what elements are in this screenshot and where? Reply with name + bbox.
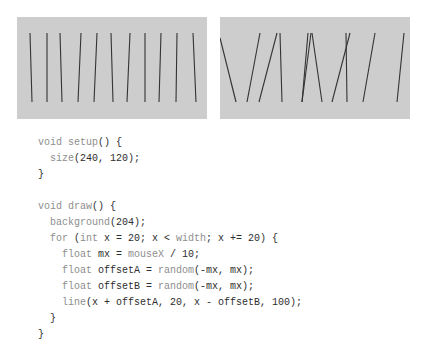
code-line: background(204); xyxy=(38,215,302,231)
code-text xyxy=(38,153,50,164)
drawn-line xyxy=(111,33,113,102)
code-text: (x + offsetA, 20, x - offsetB, 100); xyxy=(86,297,302,308)
code-keyword: size xyxy=(50,153,74,164)
drawn-line xyxy=(176,33,177,102)
drawn-line xyxy=(397,33,404,102)
code-text xyxy=(38,249,62,260)
code-keyword: int xyxy=(80,233,98,244)
drawn-line xyxy=(302,33,311,102)
code-line: float offsetB = random(-mx, mx); xyxy=(38,279,302,295)
code-keyword: width xyxy=(176,233,206,244)
code-line: float mx = mouseX / 10; xyxy=(38,247,302,263)
code-text: (204); xyxy=(110,217,146,228)
drawn-line xyxy=(127,33,130,102)
drawn-line xyxy=(78,33,81,102)
code-text xyxy=(38,281,62,292)
code-line: for (int x = 20; x < width; x += 20) { xyxy=(38,231,302,247)
code-text xyxy=(38,217,50,228)
drawn-line xyxy=(259,33,277,102)
code-line: size(240, 120); xyxy=(38,151,302,167)
code-text: } xyxy=(38,329,44,340)
code-text: (-mx, mx); xyxy=(194,281,254,292)
code-text: mx = xyxy=(92,249,128,260)
drawn-line xyxy=(220,38,236,102)
code-text: } xyxy=(38,313,56,324)
drawn-line xyxy=(60,33,62,102)
code-keyword: setup xyxy=(68,137,98,148)
code-keyword: mouseX xyxy=(128,249,164,260)
code-text: (-mx, mx); xyxy=(194,265,254,276)
code-text: ; x += 20) { xyxy=(206,233,278,244)
code-line: void draw() { xyxy=(38,199,302,215)
drawn-line xyxy=(280,33,282,102)
code-line: } xyxy=(38,311,302,327)
code-keyword: float xyxy=(62,265,92,276)
code-keyword: float xyxy=(62,249,92,260)
code-keyword: draw xyxy=(68,201,92,212)
drawn-line xyxy=(94,33,97,102)
code-keyword: line xyxy=(62,297,86,308)
sketch-output-low-mouse xyxy=(17,17,207,119)
drawn-line xyxy=(247,33,260,102)
code-line xyxy=(38,183,302,199)
code-line: line(x + offsetA, 20, x - offsetB, 100); xyxy=(38,295,302,311)
code-text: } xyxy=(38,169,44,180)
line-drawing xyxy=(17,17,207,119)
code-line: } xyxy=(38,327,302,340)
drawn-line xyxy=(312,33,322,102)
code-line: } xyxy=(38,167,302,183)
code-listing: void setup() { size(240, 120);} void dra… xyxy=(38,135,302,340)
drawn-line xyxy=(30,33,32,102)
code-keyword: random xyxy=(158,281,194,292)
code-text: ( xyxy=(68,233,80,244)
code-text: () { xyxy=(92,201,116,212)
sketch-output-high-mouse xyxy=(220,17,410,119)
code-text xyxy=(38,265,62,276)
code-keyword: random xyxy=(158,265,194,276)
drawn-line xyxy=(363,33,375,102)
drawn-line xyxy=(193,33,196,102)
code-text: x = 20; x < xyxy=(98,233,176,244)
code-line: void setup() { xyxy=(38,135,302,151)
code-keyword: void xyxy=(38,137,62,148)
code-text xyxy=(38,233,50,244)
code-keyword: for xyxy=(50,233,68,244)
code-keyword: float xyxy=(62,281,92,292)
code-text: / 10; xyxy=(164,249,200,260)
line-drawing xyxy=(220,17,410,119)
code-text: () { xyxy=(98,137,122,148)
code-keyword: void xyxy=(38,201,62,212)
code-keyword: background xyxy=(50,217,110,228)
code-text: offsetB = xyxy=(92,281,158,292)
code-line: float offsetA = random(-mx, mx); xyxy=(38,263,302,279)
code-text: (240, 120); xyxy=(74,153,140,164)
code-text: offsetA = xyxy=(92,265,158,276)
code-text xyxy=(38,297,62,308)
drawn-line xyxy=(159,33,161,102)
